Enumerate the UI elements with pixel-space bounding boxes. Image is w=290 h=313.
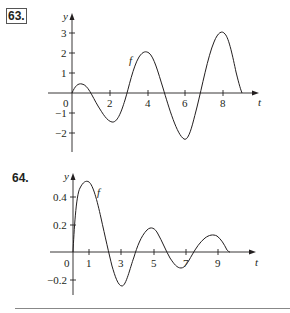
y-tick-label: −1: [55, 107, 67, 119]
t-axis-arrow-icon: [252, 91, 259, 96]
y-tick-label: 1: [61, 67, 67, 79]
curve-label-f: f: [97, 186, 102, 198]
x-tick-label: 1: [86, 257, 92, 269]
x-tick-label: 2: [107, 97, 113, 109]
t-axis-label: t: [258, 96, 262, 108]
t-axis-arrow-icon: [249, 250, 256, 255]
y-tick-label: −2: [55, 127, 67, 139]
y-tick-label: 3: [61, 27, 67, 39]
origin-label: 0: [64, 257, 70, 269]
y-axis-arrow-icon: [71, 173, 76, 180]
x-tick-label: 9: [215, 257, 221, 269]
t-axis-label: t: [255, 256, 259, 268]
x-tick-label: 6: [182, 97, 188, 109]
chart-63: y t 0 2 4 6 8 3 2 1 −1 −2 f: [48, 10, 262, 152]
chart-64: y t 0 1 3 5 7 9 0.4 0.2 −0.2 f: [47, 170, 259, 295]
y-axis-label: y: [63, 170, 69, 182]
section-divider: [15, 308, 290, 309]
x-tick-label: 5: [151, 257, 157, 269]
x-tick-label: 8: [220, 97, 226, 109]
y-axis-arrow-icon: [70, 13, 75, 20]
y-tick-label: 0.4: [53, 191, 67, 203]
y-tick-label: 2: [61, 47, 67, 59]
x-tick-label: 4: [145, 97, 151, 109]
curve-label-f: f: [129, 54, 134, 66]
y-tick-label: −0.2: [47, 274, 67, 286]
curve-f-63: [72, 32, 242, 139]
charts-canvas: y t 0 2 4 6 8 3 2 1 −1 −2 f y t 0 1 3 5: [0, 0, 290, 313]
y-axis-label: y: [62, 10, 68, 22]
y-tick-label: 0.2: [53, 219, 67, 231]
x-tick-label: 3: [118, 257, 124, 269]
